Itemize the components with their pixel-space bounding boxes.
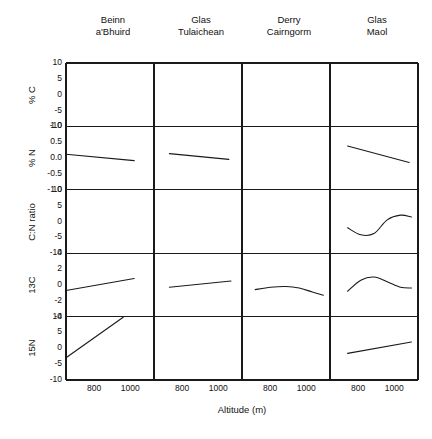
- x-tick-800: 800: [87, 383, 101, 393]
- x-axis-tick-labels: 800 1000 800 1000 800 1000 800 1000: [66, 383, 418, 397]
- x-tick-800: 800: [351, 383, 365, 393]
- x-ticks-panel-4: 800 1000: [330, 383, 418, 397]
- x-ticks-panel-1: 800 1000: [66, 383, 154, 397]
- x-tick-1000: 1000: [121, 383, 140, 393]
- trend-line-13c-panel2: [169, 281, 231, 287]
- trend-line-13c-panel3: [255, 286, 323, 295]
- multi-panel-figure: Beinn a'Bhuird Glas Tulaichean Derry Cai…: [0, 0, 432, 439]
- trend-line-n-panel4: [348, 146, 410, 162]
- x-axis-title: Altitude (m): [66, 404, 418, 415]
- x-tick-800: 800: [263, 383, 277, 393]
- trend-line-15n-panel4: [348, 342, 412, 353]
- x-tick-800: 800: [175, 383, 189, 393]
- x-tick-1000: 1000: [297, 383, 316, 393]
- trend-line-cnratio-panel4: [348, 215, 412, 235]
- trend-line-n-panel2: [169, 154, 228, 160]
- x-tick-1000: 1000: [209, 383, 228, 393]
- x-ticks-panel-2: 800 1000: [154, 383, 242, 397]
- x-tick-1000: 1000: [385, 383, 404, 393]
- plot-canvas: [0, 0, 432, 439]
- trend-line-13c-panel1: [66, 279, 134, 291]
- trend-line-n-panel1: [66, 154, 134, 160]
- trend-line-15n-panel1: [66, 317, 123, 358]
- x-ticks-panel-3: 800 1000: [242, 383, 330, 397]
- trend-line-13c-panel4: [348, 277, 412, 291]
